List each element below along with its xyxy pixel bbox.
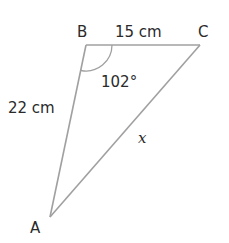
- angle-b-label: 102°: [101, 73, 137, 91]
- vertex-b-label: B: [77, 23, 87, 41]
- vertex-c-label: C: [198, 23, 208, 41]
- side-bc-label: 15 cm: [115, 23, 162, 41]
- side-ab-label: 22 cm: [8, 99, 55, 117]
- side-ac-label: x: [138, 129, 147, 147]
- side-ab: [50, 45, 86, 217]
- vertex-a-label: A: [30, 219, 41, 237]
- triangle-diagram: B C A 15 cm 22 cm x 102°: [0, 0, 229, 243]
- side-ac: [50, 45, 200, 217]
